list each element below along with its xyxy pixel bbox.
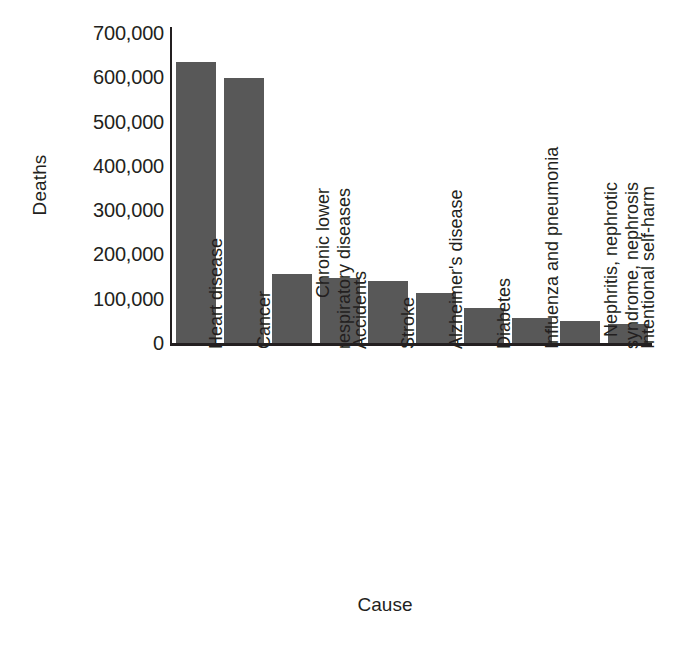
x-axis-tick-label-line: Accidents (350, 271, 371, 349)
x-axis-title: Cause (0, 594, 686, 616)
bar-series (172, 27, 652, 343)
bar-chart-figure: Deaths 700,000600,000500,000400,000300,0… (0, 0, 686, 649)
y-axis-tick-labels: 700,000600,000500,000400,000300,000200,0… (0, 0, 164, 360)
x-axis-tick-label-line: Alzheimer's disease (446, 189, 467, 349)
y-axis-tick-label: 200,000 (0, 244, 164, 264)
x-axis-tick-label-line: Chronic lower (313, 188, 334, 349)
x-axis-tick-labels: Heart diseaseCancerChronic lowerrespirat… (172, 349, 652, 599)
y-axis-tick-label: 100,000 (0, 289, 164, 309)
y-axis-tick-label: 500,000 (0, 112, 164, 132)
x-axis-tick-label-line: Diabetes (494, 278, 515, 349)
y-axis-tick-label: 700,000 (0, 23, 164, 43)
y-axis-tick-label: 0 (0, 333, 164, 353)
x-axis-tick-label-line: Heart disease (206, 238, 227, 349)
y-axis-tick-label: 600,000 (0, 67, 164, 87)
y-axis-tick-label: 300,000 (0, 200, 164, 220)
x-axis-tick-label-line: Influenza and pneumonia (542, 147, 563, 349)
x-axis-title-text: Cause (358, 594, 413, 615)
x-axis-tick-label-line: Nephritis, nephrotic (601, 182, 622, 349)
x-axis-tick-label-line: Intentional self-harm (638, 186, 659, 349)
bar (560, 321, 600, 343)
x-axis-tick-label-line: Stroke (398, 297, 419, 349)
y-axis-tick-label: 400,000 (0, 156, 164, 176)
bar (272, 274, 312, 343)
x-axis-tick-label-line: Cancer (254, 291, 275, 349)
